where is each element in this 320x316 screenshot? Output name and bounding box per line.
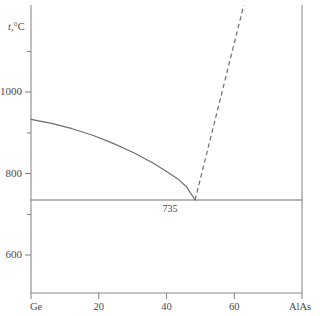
y-axis-title: t,°C: [8, 22, 25, 33]
y-axis-title-unit: °C: [14, 21, 25, 32]
y-tick-label-800: 800: [0, 168, 22, 179]
chart-canvas: [0, 0, 320, 316]
y-tick-label-1000: 1000: [0, 86, 22, 97]
x-tick-label-alas: AlAs: [281, 302, 319, 313]
liquidus-ge-rich-curve: [31, 119, 195, 200]
x-tick-label-20: 20: [84, 302, 114, 313]
liquidus-alas-rich-dashed-line: [195, 5, 244, 200]
x-tick-label-60: 60: [219, 302, 249, 313]
phase-diagram-chart: t,°C 1000 800 600 Ge 20 40 60 AlAs 735: [0, 0, 320, 316]
eutectic-temperature-label: 735: [153, 204, 187, 214]
x-tick-label-ge: Ge: [21, 302, 51, 313]
x-tick-label-40: 40: [152, 302, 182, 313]
y-tick-label-600: 600: [0, 249, 22, 260]
